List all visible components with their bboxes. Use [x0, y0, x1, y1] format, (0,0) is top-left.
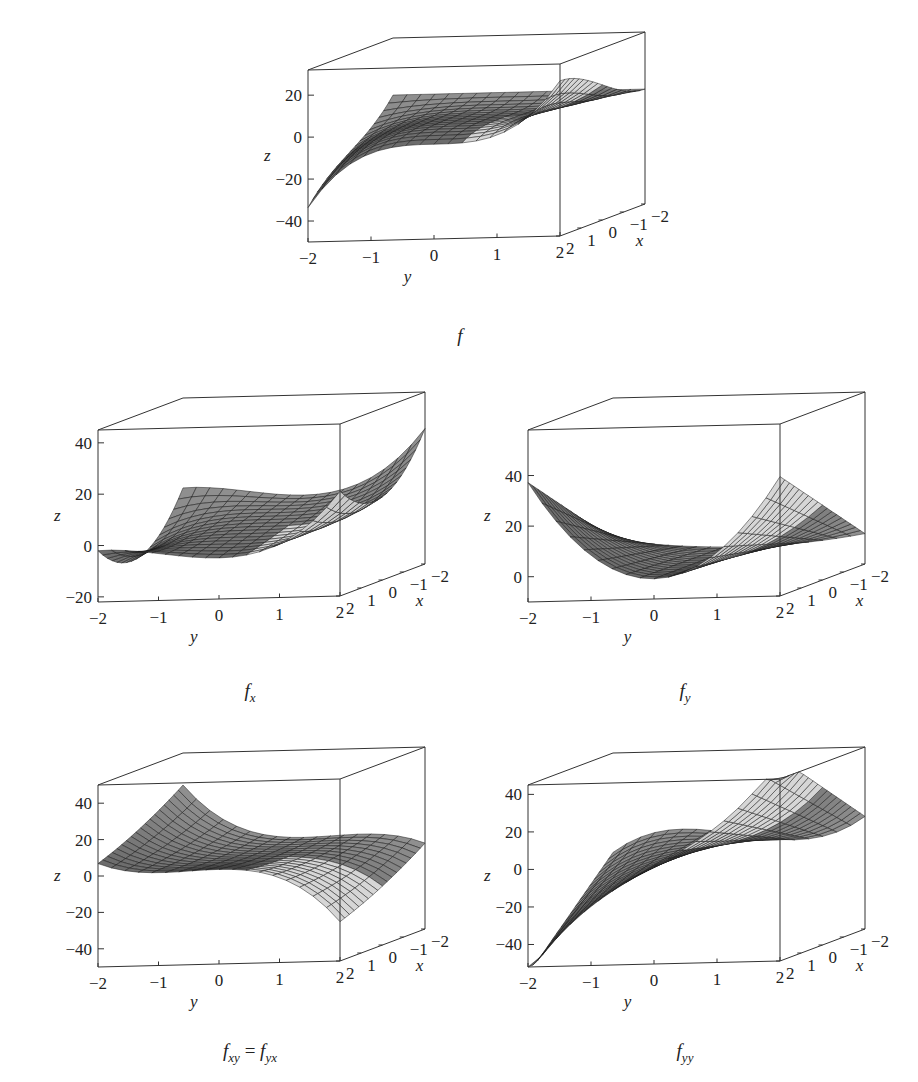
svg-text:0: 0 [84, 537, 93, 556]
svg-text:1: 1 [587, 231, 596, 250]
plot-fxy: −40−2002040z−2−1012y210−1−2x [40, 745, 450, 1015]
svg-text:0: 0 [514, 568, 523, 587]
svg-text:−1: −1 [582, 973, 600, 992]
svg-text:2: 2 [346, 964, 355, 983]
svg-text:−2: −2 [299, 249, 317, 268]
svg-text:1: 1 [713, 605, 722, 624]
svg-text:−1: −1 [362, 248, 380, 267]
svg-text:y: y [188, 992, 198, 1011]
svg-text:2: 2 [336, 968, 345, 987]
svg-text:−2: −2 [871, 932, 889, 951]
svg-text:z: z [53, 866, 61, 885]
svg-text:2: 2 [346, 599, 355, 618]
svg-text:−20: −20 [65, 903, 92, 922]
svg-text:−20: −20 [495, 898, 522, 917]
svg-text:z: z [53, 506, 61, 525]
svg-text:−20: −20 [275, 170, 302, 189]
svg-text:z: z [483, 506, 491, 525]
svg-text:x: x [855, 591, 864, 610]
svg-text:40: 40 [505, 467, 522, 486]
svg-text:0: 0 [84, 867, 93, 886]
svg-text:2: 2 [776, 968, 785, 987]
svg-text:2: 2 [566, 239, 575, 258]
svg-text:2: 2 [556, 243, 565, 262]
svg-text:−40: −40 [495, 935, 522, 954]
svg-text:−2: −2 [89, 609, 107, 628]
svg-text:−40: −40 [65, 940, 92, 959]
svg-text:20: 20 [75, 831, 92, 850]
svg-text:z: z [263, 146, 271, 165]
svg-text:1: 1 [367, 591, 376, 610]
svg-text:1: 1 [807, 956, 816, 975]
svg-text:20: 20 [75, 485, 92, 504]
caption-fyy: fyy [585, 1040, 785, 1066]
plot-fx: −2002040z−2−1012y210−1−2x [40, 390, 450, 650]
svg-text:0: 0 [829, 583, 838, 602]
svg-text:y: y [402, 267, 412, 286]
svg-text:x: x [415, 591, 424, 610]
svg-text:x: x [635, 231, 644, 250]
svg-text:40: 40 [505, 785, 522, 804]
svg-text:−2: −2 [431, 932, 449, 951]
plot-fy: 02040z−2−1012y210−1−2x [470, 390, 890, 650]
svg-text:−2: −2 [651, 207, 669, 226]
svg-text:1: 1 [275, 970, 284, 989]
svg-text:1: 1 [807, 591, 816, 610]
caption-f: f [360, 325, 560, 351]
plot-f: −40−20020z−2−1012y210−1−2x [250, 30, 670, 290]
svg-text:0: 0 [294, 128, 303, 147]
plot-fyy: −40−2002040z−2−1012y210−1−2x [470, 745, 890, 1015]
svg-text:1: 1 [367, 956, 376, 975]
svg-text:x: x [855, 956, 864, 975]
svg-text:0: 0 [389, 583, 398, 602]
svg-text:y: y [622, 627, 632, 646]
caption-fxy: fxy = fyx [150, 1040, 350, 1066]
svg-text:0: 0 [650, 606, 659, 625]
svg-text:20: 20 [505, 823, 522, 842]
caption-fx: fx [150, 680, 350, 706]
svg-text:40: 40 [75, 434, 92, 453]
svg-text:20: 20 [285, 86, 302, 105]
svg-text:1: 1 [275, 605, 284, 624]
svg-text:−40: −40 [275, 212, 302, 231]
svg-text:40: 40 [75, 794, 92, 813]
svg-text:0: 0 [389, 948, 398, 967]
svg-text:1: 1 [713, 970, 722, 989]
svg-text:−2: −2 [871, 567, 889, 586]
svg-text:−2: −2 [519, 974, 537, 993]
svg-text:−20: −20 [65, 588, 92, 607]
svg-text:1: 1 [493, 245, 502, 264]
svg-text:2: 2 [336, 603, 345, 622]
svg-text:0: 0 [650, 971, 659, 990]
svg-text:−1: −1 [582, 608, 600, 627]
svg-text:2: 2 [776, 603, 785, 622]
svg-text:y: y [622, 992, 632, 1011]
svg-text:−2: −2 [431, 567, 449, 586]
svg-text:x: x [415, 956, 424, 975]
caption-fy: fy [585, 680, 785, 706]
svg-text:0: 0 [829, 948, 838, 967]
svg-text:−2: −2 [519, 609, 537, 628]
svg-text:20: 20 [505, 517, 522, 536]
svg-text:0: 0 [514, 860, 523, 879]
svg-text:y: y [188, 627, 198, 646]
svg-text:0: 0 [215, 606, 224, 625]
svg-text:0: 0 [430, 246, 439, 265]
svg-text:z: z [483, 866, 491, 885]
svg-text:2: 2 [786, 599, 795, 618]
svg-text:0: 0 [215, 971, 224, 990]
svg-text:−1: −1 [149, 608, 167, 627]
svg-text:0: 0 [609, 223, 618, 242]
svg-text:−2: −2 [89, 974, 107, 993]
svg-text:2: 2 [786, 964, 795, 983]
svg-text:−1: −1 [149, 973, 167, 992]
